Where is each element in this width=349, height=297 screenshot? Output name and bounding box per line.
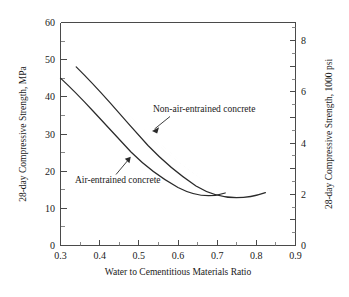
xtick-label-3: 0.6 bbox=[172, 250, 185, 261]
y2tick-label-2: 2 bbox=[301, 189, 306, 200]
leader-line-air-entrained bbox=[116, 159, 129, 175]
left-axis-ticks bbox=[61, 23, 67, 246]
xtick-label-2: 0.5 bbox=[133, 250, 146, 261]
ytick-label-60: 60 bbox=[45, 17, 55, 28]
right-axis-tick-labels: 0 2 4 6 8 bbox=[301, 35, 306, 251]
ytick-label-50: 50 bbox=[45, 54, 55, 65]
plot-frame bbox=[61, 23, 296, 246]
y2tick-label-4: 4 bbox=[301, 138, 306, 149]
y2tick-label-6: 6 bbox=[301, 86, 306, 97]
annotation-air-entrained: Air-entrained concrete bbox=[75, 157, 161, 185]
xtick-label-0: 0.3 bbox=[54, 250, 67, 261]
annotation-label-air-entrained: Air-entrained concrete bbox=[75, 175, 161, 185]
annotation-label-non-air-entrained: Non-air-entrained concrete bbox=[153, 104, 255, 114]
y-axis-title: 28-day Compressive Strength, MPa bbox=[18, 65, 28, 201]
x-axis-title: Water to Cementitious Materials Ratio bbox=[105, 267, 252, 277]
bottom-axis-ticks bbox=[61, 240, 296, 246]
xtick-label-6: 0.9 bbox=[289, 250, 302, 261]
ytick-label-20: 20 bbox=[45, 166, 55, 177]
ytick-label-10: 10 bbox=[45, 203, 55, 214]
xtick-label-5: 0.8 bbox=[250, 250, 263, 261]
ytick-label-40: 40 bbox=[45, 91, 55, 102]
y2tick-label-8: 8 bbox=[301, 35, 306, 46]
left-axis-tick-labels: 0 10 20 30 40 50 60 bbox=[45, 17, 55, 251]
y2-axis-title: 28-day Compressive Strength, 1000 psi bbox=[324, 59, 334, 210]
compressive-strength-chart: 0 10 20 30 40 50 60 bbox=[0, 0, 349, 297]
chart-figure: 0 10 20 30 40 50 60 bbox=[0, 0, 349, 297]
xtick-label-4: 0.7 bbox=[211, 250, 224, 261]
y2tick-label-0: 0 bbox=[301, 240, 306, 251]
bottom-axis-tick-labels: 0.3 0.4 0.5 0.6 0.7 0.8 0.9 bbox=[54, 250, 302, 261]
right-axis-ticks bbox=[290, 28, 296, 246]
ytick-label-30: 30 bbox=[45, 129, 55, 140]
annotation-non-air-entrained: Non-air-entrained concrete bbox=[152, 104, 255, 134]
xtick-label-1: 0.4 bbox=[93, 250, 106, 261]
leader-line-non-air-entrained bbox=[155, 117, 171, 130]
